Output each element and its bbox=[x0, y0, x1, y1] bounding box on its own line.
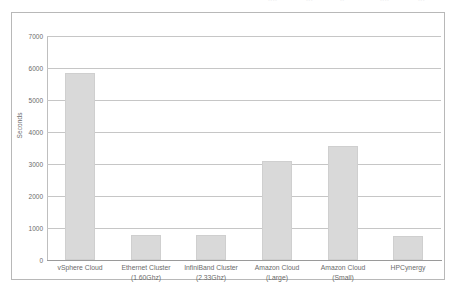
y-axis-tick-label: 1000 bbox=[9, 225, 43, 232]
gridline bbox=[47, 260, 441, 261]
clipped-text-fragment: .. bbox=[340, 0, 345, 2]
gridline bbox=[47, 196, 441, 197]
x-axis-tick-labels: vSphere CloudEthernet Cluster(1.60Ghz)In… bbox=[47, 263, 441, 289]
x-axis-tick-label-line1: Amazon Cloud bbox=[255, 264, 300, 271]
x-axis-tick-label-line1: Ethernet Cluster bbox=[121, 264, 170, 271]
x-axis-tick-label: InfiniBand Cluster(2.33Ghz) bbox=[175, 263, 247, 282]
plot-area bbox=[47, 36, 441, 260]
bar[interactable] bbox=[262, 161, 292, 260]
gridline bbox=[47, 164, 441, 165]
y-axis-tick-label: 2000 bbox=[9, 193, 43, 200]
clipped-text-fragment: .... bbox=[380, 0, 389, 2]
x-axis-tick-label-line1: Amazon Cloud bbox=[321, 264, 366, 271]
bar[interactable] bbox=[393, 236, 423, 260]
gridline bbox=[47, 36, 441, 37]
x-axis-tick-label-line2: (2.33Ghz) bbox=[175, 273, 247, 283]
y-axis-tick-label: 3000 bbox=[9, 161, 43, 168]
gridline bbox=[47, 228, 441, 229]
gridline bbox=[47, 68, 441, 69]
bar[interactable] bbox=[65, 73, 95, 260]
x-axis-tick-label: Amazon Cloud(Large) bbox=[241, 263, 313, 282]
bar[interactable] bbox=[131, 235, 161, 260]
y-axis-tick-label: 5000 bbox=[9, 97, 43, 104]
x-axis-tick-label-line2: (Small) bbox=[307, 273, 379, 283]
gridline bbox=[47, 132, 441, 133]
clipped-text-fragment: ... bbox=[418, 0, 425, 2]
y-axis-tick-label: 7000 bbox=[9, 33, 43, 40]
x-axis-tick-label-line2: (Large) bbox=[241, 273, 313, 283]
x-axis-tick-label: vSphere Cloud bbox=[44, 263, 116, 273]
clipped-text-fragment: .... bbox=[268, 0, 277, 2]
x-axis-tick-label-line1: HPCynergy bbox=[391, 264, 426, 271]
clipped-header-text: ................ bbox=[0, 0, 452, 9]
bar[interactable] bbox=[328, 146, 358, 260]
clipped-text-fragment: ... bbox=[306, 0, 313, 2]
x-axis-tick-label-line1: InfiniBand Cluster bbox=[184, 264, 238, 271]
x-axis-tick-label: HPCynergy bbox=[372, 263, 444, 273]
gridline bbox=[47, 100, 441, 101]
x-axis-tick-label-line1: vSphere Cloud bbox=[58, 264, 103, 271]
y-axis-tick-labels: 01000200030004000500060007000 bbox=[5, 36, 43, 260]
bar[interactable] bbox=[196, 235, 226, 260]
x-axis-tick-label: Ethernet Cluster(1.60Ghz) bbox=[110, 263, 182, 282]
y-axis-tick-label: 6000 bbox=[9, 65, 43, 72]
x-axis-tick-label-line2: (1.60Ghz) bbox=[110, 273, 182, 283]
y-axis-tick-label: 4000 bbox=[9, 129, 43, 136]
y-axis-tick-label: 0 bbox=[9, 257, 43, 264]
x-axis-tick-label: Amazon Cloud(Small) bbox=[307, 263, 379, 282]
